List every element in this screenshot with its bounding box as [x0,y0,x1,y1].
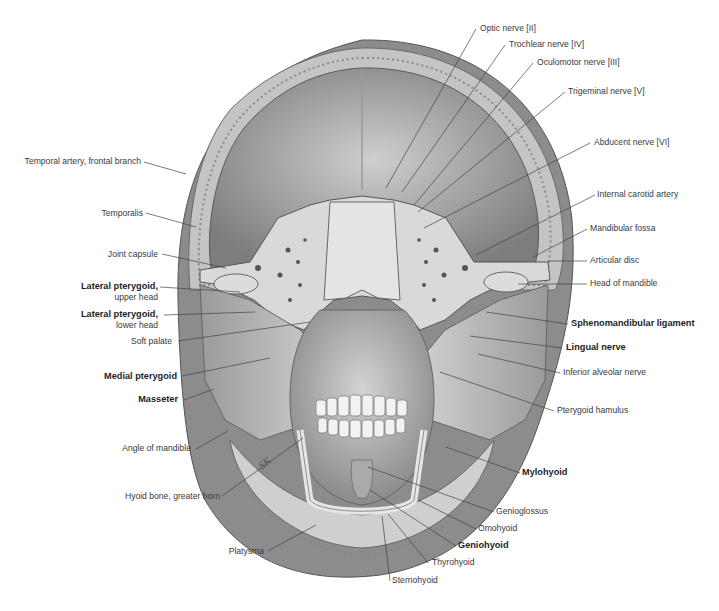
label-hyoid-greater-horn: Hyoid bone, greater horn [125,491,220,502]
label-optic-nerve: Optic nerve [II] [480,23,536,34]
label-lateral-pterygoid-lower-main: Lateral pterygoid, [81,309,158,319]
label-angle-of-mandible: Angle of mandible [122,443,191,454]
label-lateral-pterygoid-upper: Lateral pterygoid, upper head [81,281,158,303]
label-lingual-nerve: Lingual nerve [566,342,626,353]
label-trochlear-nerve: Trochlear nerve [IV] [509,39,584,50]
label-geniohyoid: Geniohyoid [458,540,509,551]
label-soft-palate: Soft palate [131,336,172,347]
label-temporalis: Temporalis [101,208,143,219]
label-lateral-pterygoid-lower: Lateral pterygoid, lower head [81,309,158,331]
label-head-of-mandible: Head of mandible [590,278,657,289]
label-genioglossus: Genioglossus [496,506,548,517]
label-mylohyoid: Mylohyoid [522,467,567,478]
label-abducent-nerve: Abducent nerve [VI] [594,137,669,148]
anatomy-figure: SK Temporal artery, f [0,0,719,611]
label-sternohyoid: Sternohyoid [392,575,438,586]
label-thyrohyoid: Thyrohyoid [432,557,475,568]
label-lateral-pterygoid-upper-sub: upper head [81,292,158,303]
label-internal-carotid-artery: Internal carotid artery [597,189,678,200]
label-omohyoid: Omohyoid [478,523,517,534]
label-mandibular-fossa: Mandibular fossa [590,223,655,234]
label-medial-pterygoid: Medial pterygoid [104,371,177,382]
label-lateral-pterygoid-upper-main: Lateral pterygoid, [81,281,158,291]
label-masseter: Masseter [138,394,178,405]
label-trigeminal-nerve: Trigeminal nerve [V] [568,86,645,97]
label-articular-disc: Articular disc [590,255,639,266]
label-inferior-alveolar-nerve: Inferior alveolar nerve [563,367,646,378]
label-temporal-artery-frontal-branch: Temporal artery, frontal branch [25,156,141,167]
label-lateral-pterygoid-lower-sub: lower head [81,320,158,331]
label-oculomotor-nerve: Oculomotor nerve [III] [537,57,620,68]
label-sphenomandibular-ligament: Sphenomandibular ligament [571,318,695,329]
label-joint-capsule: Joint capsule [108,249,158,260]
label-platysma: Platysma [229,546,264,557]
label-pterygoid-hamulus: Pterygoid hamulus [557,405,628,416]
